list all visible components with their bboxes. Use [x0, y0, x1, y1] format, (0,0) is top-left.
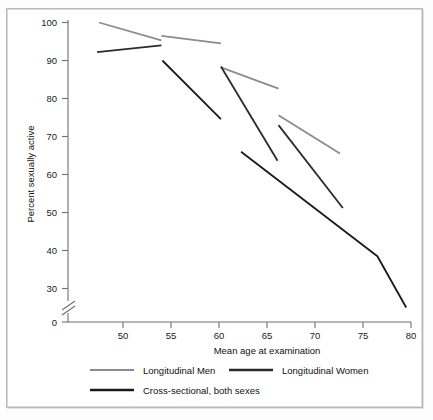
- y-tick-labels: 100 90 80 70 60 50 40 30 0: [41, 17, 57, 328]
- x-axis-title: Mean age at examination: [214, 345, 321, 356]
- y-axis-title: Percent sexually active: [25, 125, 36, 222]
- series-cross-sectional-both-sexes: [162, 61, 406, 308]
- x-tick-label: 60: [214, 330, 225, 341]
- y-tick-label: 90: [46, 55, 57, 66]
- legend: Longitudinal Men Longitudinal Women Cros…: [90, 365, 368, 396]
- x-tick-label: 70: [310, 330, 321, 341]
- series-longitudinal-men: [99, 23, 340, 154]
- legend-entry-longitudinal-women[interactable]: Longitudinal Women: [229, 365, 368, 376]
- y-tick-label: 0: [52, 317, 57, 328]
- series-segment: [99, 23, 161, 41]
- y-tick-label: 80: [46, 93, 57, 104]
- figure-container: 100 90 80 70 60 50 40 30 0 50: [0, 0, 433, 420]
- series-longitudinal-women: [97, 45, 343, 208]
- x-tick-label: 55: [166, 330, 177, 341]
- data-series-layer: [97, 23, 406, 308]
- series-segment: [221, 67, 279, 88]
- y-tick-label: 40: [46, 245, 57, 256]
- x-tick-label: 65: [262, 330, 273, 341]
- x-tick-labels: 50 55 60 65 70 75 80: [118, 330, 417, 341]
- series-segment: [97, 45, 161, 52]
- series-segment: [162, 61, 221, 120]
- series-segment: [279, 115, 340, 153]
- legend-entry-label: Cross-sectional, both sexes: [143, 385, 260, 396]
- legend-entry-label: Longitudinal Men: [143, 365, 215, 376]
- x-tick-label: 50: [118, 330, 129, 341]
- x-tick-label: 75: [358, 330, 369, 341]
- y-tick-label: 30: [46, 283, 57, 294]
- y-axis-break-icon: [62, 301, 75, 315]
- y-tick-label: 70: [46, 131, 57, 142]
- series-segment: [279, 125, 343, 208]
- legend-entry-cross-sectional[interactable]: Cross-sectional, both sexes: [90, 385, 260, 396]
- series-segment: [241, 152, 406, 308]
- figure-plate: 100 90 80 70 60 50 40 30 0 50: [6, 8, 423, 408]
- x-tick-marks: [123, 322, 411, 328]
- chart-canvas: 100 90 80 70 60 50 40 30 0 50: [7, 9, 420, 405]
- legend-entry-longitudinal-men[interactable]: Longitudinal Men: [90, 365, 215, 376]
- series-segment: [161, 36, 221, 44]
- y-tick-label: 60: [46, 169, 57, 180]
- x-tick-label: 80: [406, 330, 417, 341]
- legend-entry-label: Longitudinal Women: [282, 365, 368, 376]
- y-tick-label: 50: [46, 207, 57, 218]
- series-segment: [221, 67, 278, 161]
- y-tick-marks: [62, 23, 68, 323]
- y-tick-label: 100: [41, 17, 57, 28]
